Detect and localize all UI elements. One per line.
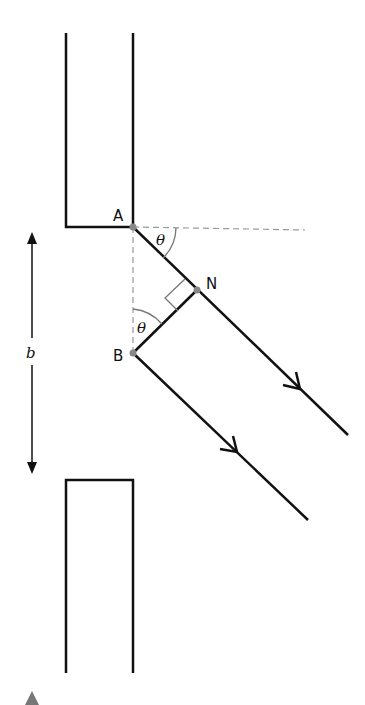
point-n: [194, 287, 201, 294]
horizontal-reference-line: [133, 227, 305, 230]
diffraction-diagram: A N B θ θ b: [0, 0, 365, 705]
label-n: N: [206, 275, 217, 293]
triangle-marker-icon: [25, 691, 39, 705]
ray-a: [133, 227, 348, 435]
label-theta-bottom: θ: [137, 319, 146, 337]
label-b-width: b: [26, 344, 36, 362]
label-b: B: [113, 347, 123, 365]
label-a: A: [113, 207, 124, 225]
arrowhead-up: [27, 232, 37, 244]
upper-barrier: [66, 33, 133, 227]
point-a: [130, 224, 137, 231]
lower-barrier: [66, 480, 133, 673]
ray-b: [133, 353, 308, 520]
arrowhead-down: [27, 462, 37, 474]
point-b: [130, 350, 137, 357]
label-theta-top: θ: [156, 231, 165, 249]
